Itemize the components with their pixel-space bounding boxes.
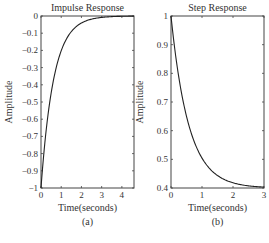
y-tick-label: 0.5 <box>157 154 169 164</box>
step-response-plot: Step Response012310.90.80.70.60.50.4Time… <box>134 2 267 228</box>
plot-frame <box>171 16 264 188</box>
y-tick-label: −0.6 <box>22 114 39 124</box>
y-tick-label: −0.9 <box>22 166 39 176</box>
response-curve <box>41 16 134 188</box>
y-tick-label: −0.5 <box>22 97 39 107</box>
x-tick-label: 1 <box>59 190 64 200</box>
x-tick-label: 2 <box>231 190 236 200</box>
x-tick-label: 4 <box>120 190 125 200</box>
response-curve <box>171 16 264 187</box>
plot-title: Impulse Response <box>51 2 125 13</box>
y-tick-label: −1 <box>28 183 38 193</box>
x-tick-label: 0 <box>39 190 44 200</box>
y-axis-label: Amplitude <box>3 80 14 123</box>
y-tick-label: −0.8 <box>22 149 39 159</box>
x-tick-label: 2 <box>79 190 84 200</box>
x-tick-label: 3 <box>99 190 104 200</box>
figure-caption: (b) <box>212 216 224 228</box>
y-tick-label: 0.9 <box>157 40 169 50</box>
x-axis-label: Time(seconds) <box>188 202 247 214</box>
x-tick-label: 0 <box>169 190 174 200</box>
y-tick-label: 0.4 <box>157 183 169 193</box>
figure-caption: (a) <box>82 216 93 228</box>
plot-title: Step Response <box>188 2 247 13</box>
y-tick-label: −0.4 <box>22 80 39 90</box>
x-axis-label: Time(seconds) <box>58 202 117 214</box>
y-axis-label: Amplitude <box>134 80 145 123</box>
y-tick-label: −0.2 <box>22 45 38 55</box>
chart-canvas: Impulse Response012340−0.1−0.2−0.3−0.4−0… <box>0 0 269 243</box>
plot-frame <box>41 16 134 188</box>
y-tick-label: 1 <box>164 11 169 21</box>
y-tick-label: −0.7 <box>22 131 39 141</box>
y-tick-label: 0.7 <box>157 97 169 107</box>
y-tick-label: 0.6 <box>157 126 169 136</box>
y-tick-label: 0.8 <box>157 68 169 78</box>
y-tick-label: 0 <box>34 11 39 21</box>
impulse-response-plot: Impulse Response012340−0.1−0.2−0.3−0.4−0… <box>3 2 134 228</box>
y-tick-label: −0.1 <box>22 28 38 38</box>
x-tick-label: 1 <box>200 190 205 200</box>
y-tick-label: −0.3 <box>22 63 39 73</box>
x-tick-label: 3 <box>262 190 267 200</box>
